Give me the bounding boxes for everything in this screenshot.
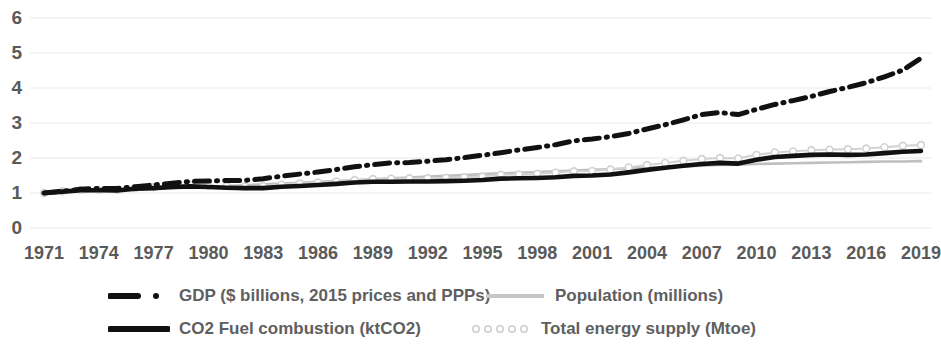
solid-thin-swatch — [484, 288, 546, 304]
x-axis-tick-label: 2010 — [737, 243, 777, 264]
y-axis-tick-label: 5 — [11, 42, 22, 64]
x-axis-tick-label: 1977 — [134, 243, 174, 264]
series-layer — [41, 58, 925, 196]
x-axis-tick-label: 1980 — [188, 243, 228, 264]
x-axis-tick-label: 1971 — [24, 243, 64, 264]
x-axis-tick-label: 1989 — [353, 243, 393, 264]
x-axis-tick-label: 1998 — [517, 243, 557, 264]
plot-area — [30, 8, 931, 240]
dotted-markers-swatch — [470, 321, 532, 337]
x-axis-tick-label: 1986 — [298, 243, 338, 264]
legend-item-label: Population (millions) — [555, 286, 723, 306]
legend-item[interactable]: GDP ($ billions, 2015 prices and PPPs) — [108, 286, 490, 306]
legend-item[interactable]: Population (millions) — [484, 286, 723, 306]
x-axis-tick-label: 1995 — [462, 243, 502, 264]
series-marker — [845, 146, 852, 153]
x-axis-tick-label: 2013 — [791, 243, 831, 264]
series-line — [44, 151, 921, 193]
x-axis-tick-label: 2004 — [627, 243, 667, 264]
series-marker — [881, 144, 888, 151]
x-axis-tick-label: 2001 — [572, 243, 612, 264]
solid-thick-swatch — [108, 321, 170, 337]
series-marker — [826, 146, 833, 153]
x-axis: 1971197419771980198319861989199219951998… — [0, 243, 931, 275]
legend-item[interactable]: Total energy supply (Mtoe) — [470, 319, 756, 339]
x-axis-tick-label: 2016 — [846, 243, 886, 264]
x-axis-tick-label: 2007 — [682, 243, 722, 264]
y-axis-tick-label: 3 — [11, 112, 22, 134]
series-marker — [863, 145, 870, 152]
legend-item[interactable]: CO2 Fuel combustion (ktCO2) — [108, 319, 421, 339]
series-marker — [735, 155, 742, 162]
series-marker — [918, 142, 925, 149]
x-axis-tick-label: 1992 — [408, 243, 448, 264]
x-axis-tick-label: 1974 — [79, 243, 119, 264]
x-axis-tick-label: 2019 — [901, 243, 941, 264]
series-marker — [899, 142, 906, 149]
gridlines — [30, 18, 931, 228]
y-axis-tick-label: 2 — [11, 147, 22, 169]
y-axis-tick-label: 0 — [11, 217, 22, 239]
y-axis-tick-label: 6 — [11, 7, 22, 29]
plot-svg — [30, 8, 931, 240]
legend-item-label: Total energy supply (Mtoe) — [541, 319, 756, 339]
y-axis-tick-label: 4 — [11, 77, 22, 99]
dash-dot-swatch — [108, 288, 170, 304]
legend-item-label: GDP ($ billions, 2015 prices and PPPs) — [179, 286, 490, 306]
legend-item-label: CO2 Fuel combustion (ktCO2) — [179, 319, 421, 339]
series-solid-thick — [44, 151, 921, 193]
x-axis-tick-label: 1983 — [243, 243, 283, 264]
series-marker — [717, 155, 724, 162]
y-axis: 0123456 — [0, 8, 30, 240]
y-axis-tick-label: 1 — [11, 182, 22, 204]
series-marker — [698, 156, 705, 163]
chart-legend: GDP ($ billions, 2015 prices and PPPs)Po… — [0, 282, 931, 349]
